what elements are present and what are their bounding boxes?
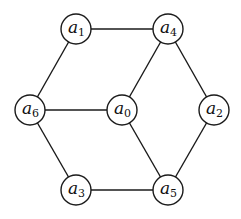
node-label: a — [68, 17, 78, 37]
node-subscript: 6 — [32, 107, 39, 120]
node-subscript: 5 — [170, 187, 177, 200]
node-a4: a4 — [153, 14, 183, 44]
node-a3: a3 — [61, 175, 91, 205]
node-label: a — [206, 98, 216, 118]
node-subscript: 3 — [78, 187, 85, 200]
node-label: a — [160, 178, 170, 198]
node-subscript: 1 — [78, 26, 85, 39]
node-label: a — [22, 98, 32, 118]
node-subscript: 2 — [216, 107, 223, 120]
node-label: a — [160, 17, 170, 37]
node-a2: a2 — [199, 95, 229, 125]
graph-diagram: a0a1a2a3a4a5a6 — [0, 0, 241, 219]
node-subscript: 4 — [170, 26, 177, 39]
node-a1: a1 — [61, 14, 91, 44]
node-a0: a0 — [107, 95, 137, 125]
node-a5: a5 — [153, 175, 183, 205]
node-subscript: 0 — [124, 107, 131, 120]
node-a6: a6 — [15, 95, 45, 125]
node-label: a — [114, 98, 124, 118]
node-label: a — [68, 178, 78, 198]
